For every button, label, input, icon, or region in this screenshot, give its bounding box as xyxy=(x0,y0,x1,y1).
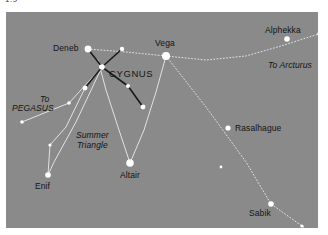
to-arcturus-label: To Arcturus xyxy=(268,60,312,70)
star-Enif[interactable] xyxy=(45,172,51,178)
guide-line-cygnus-to-enif xyxy=(48,67,102,175)
star-pegasus-star[interactable] xyxy=(67,101,71,105)
star-label-rasalhague: Rasalhague xyxy=(235,123,281,133)
star-ophiuchus-faint[interactable] xyxy=(220,166,223,169)
star-Deneb[interactable] xyxy=(85,46,92,53)
star-label-deneb: Deneb xyxy=(53,43,79,53)
summer-triangle-label: SummerTriangle xyxy=(76,131,109,150)
star-arcturus-edge[interactable] xyxy=(317,32,318,36)
star-Altair[interactable] xyxy=(126,159,134,167)
star-Sabik[interactable] xyxy=(268,201,274,207)
star-Alphekka[interactable] xyxy=(284,36,290,42)
constellation-line-4 xyxy=(128,86,143,107)
star-cygnus-center[interactable] xyxy=(99,64,105,70)
star-cygnus-upper-right[interactable] xyxy=(120,47,124,51)
to-pegasus-label-line2: PEGASUS xyxy=(12,103,54,113)
star-Rasalhague[interactable] xyxy=(225,125,230,130)
star-Vega[interactable] xyxy=(162,52,170,60)
constellation-line-0 xyxy=(88,49,102,67)
star-cygnus-lower-left[interactable] xyxy=(83,86,88,91)
star-chart-frame: DenebVegaAltairAlphekkaRasalhagueSabikAn… xyxy=(6,12,318,228)
guide-line-vega-to-arcturus xyxy=(166,34,318,60)
star-label-enif: Enif xyxy=(35,181,50,191)
star-label-alphekka: Alphekka xyxy=(265,25,301,35)
star-label-vega: Vega xyxy=(155,38,175,48)
star-cygnus-far-right[interactable] xyxy=(141,105,146,110)
star-cygnus-mid-right[interactable] xyxy=(126,84,130,88)
guide-line-deneb-to-vega xyxy=(88,49,166,56)
star-enif-upper[interactable] xyxy=(48,143,51,146)
constellation-line-1 xyxy=(102,49,122,67)
cygnus-label: CYGNUS xyxy=(109,69,153,79)
guide-line-vega-to-antares xyxy=(166,56,313,228)
star-lower-left-faint[interactable] xyxy=(20,120,24,124)
cropped-caption-text: 1.9 xyxy=(5,0,18,2)
star-antares-companion[interactable] xyxy=(300,224,303,227)
star-label-sabik: Sabik xyxy=(249,208,271,218)
guide-line-pegasus-ray-upper xyxy=(22,67,102,122)
star-label-altair: Altair xyxy=(120,170,140,180)
